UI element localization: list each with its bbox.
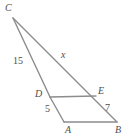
figure-lines	[0, 0, 126, 137]
geometry-figure: C D E A B 15 5 7 x	[0, 0, 126, 137]
vertex-label-a: A	[65, 125, 71, 135]
vertex-label-b: B	[115, 125, 121, 135]
measure-label-eb: 7	[105, 103, 110, 113]
vertex-label-c: C	[5, 3, 12, 13]
measure-label-ce: x	[61, 50, 65, 60]
measure-label-da: 5	[45, 104, 50, 114]
vertex-label-e: E	[98, 86, 104, 96]
vertex-label-d: D	[35, 89, 42, 99]
segment-DE	[50, 96, 96, 97]
segment-DA	[50, 97, 64, 122]
measure-label-cd: 15	[13, 56, 23, 66]
segment-CE-to-B	[13, 18, 117, 122]
